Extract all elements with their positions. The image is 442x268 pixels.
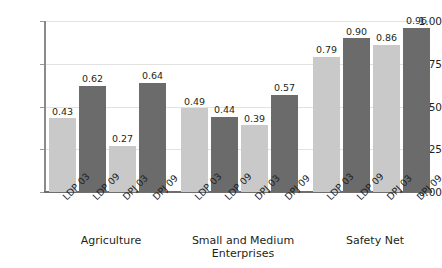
bar[interactable]	[403, 28, 430, 192]
bar-value-label: 0.96	[406, 16, 427, 26]
bar-value-label: 0.57	[274, 83, 295, 93]
bar-value-label: 0.86	[376, 33, 397, 43]
bar-value-label: 0.44	[214, 105, 235, 115]
bar-slot: 0.49	[181, 21, 208, 192]
bar-slot: 0.79	[313, 21, 340, 192]
bar-value-label: 0.39	[244, 114, 265, 124]
bar-slot: 0.62	[79, 21, 106, 192]
bar-slot: 0.90	[343, 21, 370, 192]
bar-value-label: 0.43	[52, 107, 73, 117]
bar-slot: 0.27	[109, 21, 136, 192]
bar-value-label: 0.64	[142, 71, 163, 81]
bar-slot: 0.39	[241, 21, 268, 192]
bar-value-label: 0.90	[346, 27, 367, 37]
bar-slot: 0.96	[403, 21, 430, 192]
bar-value-label: 0.27	[112, 134, 133, 144]
bar-value-label: 0.49	[184, 97, 205, 107]
bar[interactable]	[313, 57, 340, 192]
bar-slot: 0.57	[271, 21, 298, 192]
plot-area: 0.430.620.270.640.490.440.390.570.790.90…	[44, 21, 432, 192]
bar-chart: 0.000.250.500.751.00 0.430.620.270.640.4…	[0, 0, 442, 268]
bar-slot: 0.44	[211, 21, 238, 192]
bar-slot: 0.43	[49, 21, 76, 192]
bar-slot: 0.86	[373, 21, 400, 192]
bar-value-label: 0.79	[316, 45, 337, 55]
bar[interactable]	[181, 108, 208, 192]
bar-value-label: 0.62	[82, 74, 103, 84]
group-caption: Safety Net	[289, 235, 442, 248]
bar[interactable]	[343, 38, 370, 192]
bar-slot: 0.64	[139, 21, 166, 192]
